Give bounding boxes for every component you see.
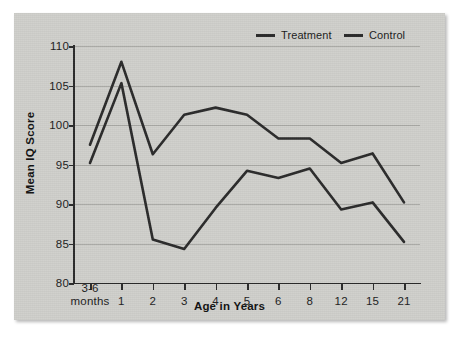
plot-area: 80859095100105110 3-6months1234568121521: [74, 46, 420, 283]
y-axis-line: [73, 45, 75, 284]
legend-swatch-treatment: [256, 34, 275, 37]
series-lines: [74, 46, 420, 283]
y-axis-tick-label: 95: [29, 159, 69, 171]
x-axis-tick: [404, 284, 406, 290]
y-axis-tick-label: 100: [29, 119, 69, 131]
legend-label-treatment: Treatment: [281, 29, 332, 41]
x-axis-tick: [153, 284, 155, 290]
x-axis-tick: [184, 284, 186, 290]
x-axis-tick-label: 21: [375, 295, 433, 307]
x-axis-tick: [216, 284, 218, 290]
x-axis-tick: [278, 284, 280, 290]
chart-plate: Treatment Control Mean IQ Score Age in Y…: [14, 13, 445, 320]
legend-swatch-control: [344, 34, 363, 37]
y-axis-tick-label: 90: [29, 198, 69, 210]
y-axis-tick-label: 85: [29, 238, 69, 250]
x-axis-line: [73, 283, 421, 285]
x-axis-tick: [121, 284, 123, 290]
x-axis-tick: [373, 284, 375, 290]
x-axis-tick: [310, 284, 312, 290]
legend-item-control[interactable]: Control: [344, 29, 405, 41]
y-axis-tick-label: 105: [29, 80, 69, 92]
x-axis-tick: [247, 284, 249, 290]
series-line-treatment: [90, 62, 404, 203]
legend-label-control: Control: [369, 29, 405, 41]
x-axis-tick: [341, 284, 343, 290]
y-axis-tick-label: 110: [29, 40, 69, 52]
legend-item-treatment[interactable]: Treatment: [256, 29, 332, 41]
figure: Treatment Control Mean IQ Score Age in Y…: [0, 0, 459, 338]
chart-legend: Treatment Control: [14, 13, 445, 39]
